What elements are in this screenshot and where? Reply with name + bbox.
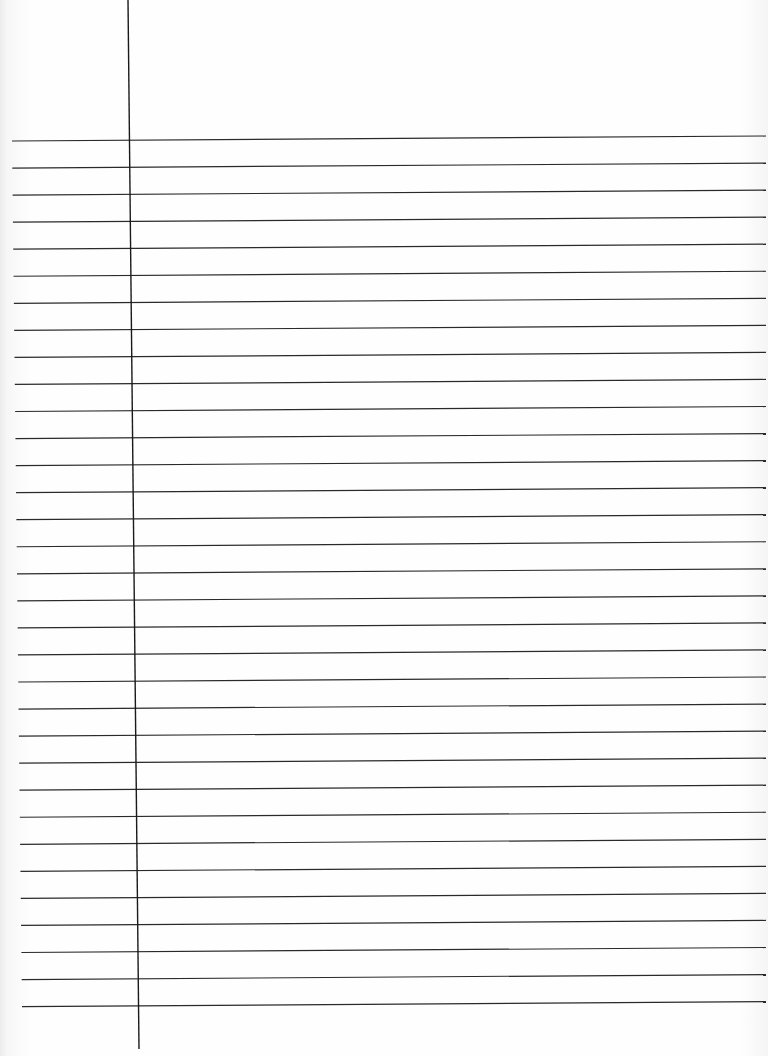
ruled-line — [19, 758, 766, 763]
ruled-line — [13, 190, 766, 195]
ruled-line — [13, 217, 766, 222]
ruled-line — [14, 271, 766, 276]
ruled-line — [18, 650, 766, 655]
margin-line — [128, 0, 139, 1049]
ruled-line — [16, 461, 766, 466]
ruled-line — [12, 136, 766, 141]
ruled-line — [19, 731, 766, 736]
ruled-line — [12, 163, 766, 168]
ruled-line — [13, 244, 766, 249]
ruled-line — [16, 488, 766, 493]
ruled-line — [22, 975, 766, 980]
ruled-line — [20, 785, 767, 790]
ruled-line — [21, 948, 766, 953]
ruled-line — [15, 352, 767, 357]
ruled-line — [21, 920, 766, 925]
ruled-line — [20, 866, 766, 871]
ruled-line — [21, 893, 766, 898]
ruled-line — [14, 298, 766, 303]
lined-paper-sheet — [0, 0, 768, 1056]
ruled-line — [15, 434, 766, 439]
ruled-line — [20, 839, 766, 844]
ruled-line — [20, 812, 766, 817]
ruled-line — [15, 379, 766, 384]
ruled-line — [17, 596, 766, 601]
ruled-line — [17, 569, 766, 574]
ruled-line — [22, 1002, 766, 1007]
ruled-line — [14, 325, 766, 330]
ruled-line — [19, 704, 766, 709]
ruled-line — [18, 677, 766, 682]
ruled-line — [18, 623, 766, 628]
ruled-line — [15, 407, 766, 412]
ruled-line — [16, 515, 766, 520]
ruled-lines — [0, 0, 768, 1056]
ruled-line — [17, 542, 766, 547]
